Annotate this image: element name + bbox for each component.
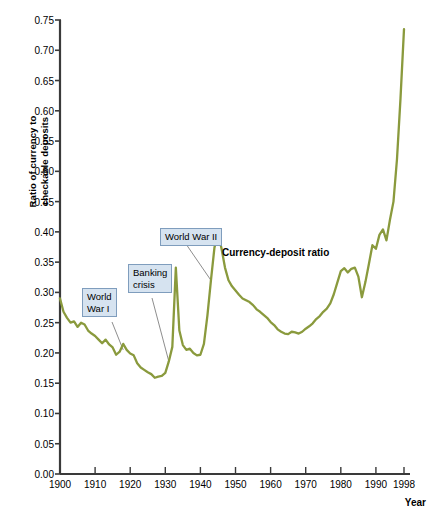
series-line-0 [60,29,404,378]
annotation-banking-crisis: Banking crisis [128,264,172,293]
leader-line-bank [152,298,169,361]
series-label-currency-deposit-ratio: Currency-deposit ratio [222,247,329,258]
leader-line-ww2 [186,244,211,280]
data-series-group [60,29,404,378]
annotation-leader-lines [112,244,211,361]
currency-deposit-ratio-chart: Ratio of currency to checkable deposits … [0,0,434,520]
annotation-world-war-1: World War I [82,288,117,317]
plot-area [0,0,434,520]
annotation-world-war-2: World War II [160,228,222,246]
